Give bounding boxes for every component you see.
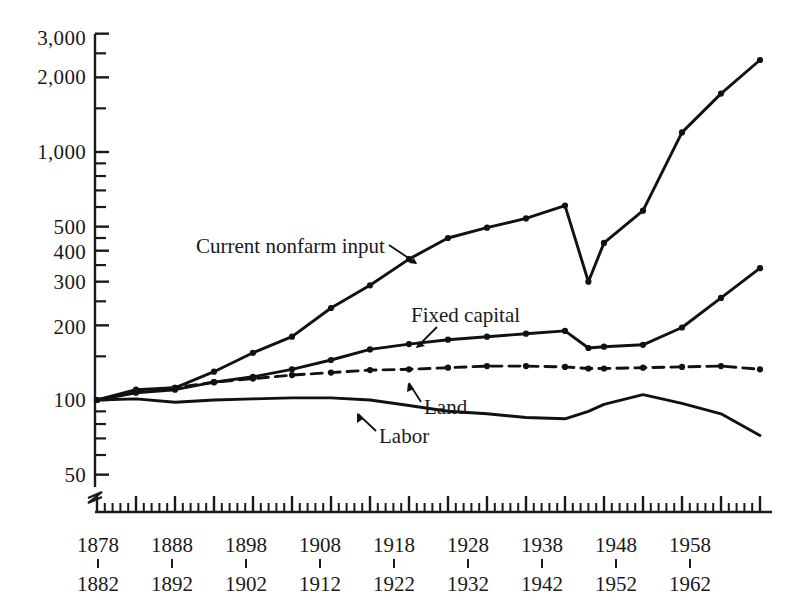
series-marker: [133, 389, 139, 395]
series-marker: [328, 370, 334, 376]
series-marker: [757, 366, 763, 372]
series-marker: [718, 363, 724, 369]
y-tick-label-300: 300: [4, 270, 86, 295]
series-marker: [250, 376, 256, 382]
series-marker: [679, 129, 685, 135]
series-marker: [211, 379, 217, 385]
series-marker: [445, 235, 451, 241]
series-marker: [367, 367, 373, 373]
series-marker: [367, 282, 373, 288]
series-marker: [562, 203, 568, 209]
annotation-arrow-labor: [358, 414, 376, 431]
axis-break-symbol: [88, 492, 102, 503]
series-marker: [640, 342, 646, 348]
series-label-fixed-capital: Fixed capital: [411, 303, 520, 328]
y-tick-label-500: 500: [4, 215, 86, 240]
series-label-current-nonfarm-input: Current nonfarm input: [196, 234, 385, 259]
series-marker: [289, 372, 295, 378]
y-tick-label-1000: 1,000: [4, 140, 86, 165]
series-marker: [328, 357, 334, 363]
series-marker: [562, 328, 568, 334]
y-tick-label-200: 200: [4, 315, 86, 340]
series-marker: [523, 363, 529, 369]
y-tick-label-400: 400: [4, 240, 86, 265]
series-marker: [445, 365, 451, 371]
series-marker: [757, 265, 763, 271]
chart-plot-area: [0, 0, 786, 613]
series-marker: [585, 345, 591, 351]
y-axis-ticks: [95, 34, 109, 475]
series-marker: [289, 334, 295, 340]
series-marker: [406, 366, 412, 372]
series-marker: [640, 365, 646, 371]
series-marker: [172, 385, 178, 391]
series-marker: [367, 346, 373, 352]
series-marker: [640, 208, 646, 214]
series-marker: [757, 57, 763, 63]
x-tick-label-upper-8: 1958: [644, 533, 736, 558]
series-line-current-nonfarm-input: [97, 60, 760, 400]
series-marker: [718, 295, 724, 301]
y-tick-label-2000: 2,000: [4, 65, 86, 90]
x-axis-ticks: [97, 496, 760, 512]
series-marker: [718, 91, 724, 97]
series-marker: [445, 337, 451, 343]
series-marker: [328, 305, 334, 311]
x-tick-label-lower-8: 1962: [644, 572, 736, 597]
series-marker: [211, 369, 217, 375]
series-marker: [289, 366, 295, 372]
chart-figure: 3,000 2,000 1,000 500 400 300 200 100 50…: [0, 0, 786, 613]
series-marker: [484, 225, 490, 231]
series-marker: [585, 279, 591, 285]
series-marker: [484, 363, 490, 369]
series-marker: [601, 344, 607, 350]
y-tick-label-3000: 3,000: [4, 26, 86, 51]
series-marker: [601, 365, 607, 371]
series-marker: [250, 350, 256, 356]
y-tick-label-50: 50: [4, 463, 86, 488]
series-label-land: Land: [424, 395, 467, 420]
series-marker: [562, 364, 568, 370]
series-marker: [601, 240, 607, 246]
series-marker: [406, 341, 412, 347]
series-marker: [484, 334, 490, 340]
series-marker: [679, 324, 685, 330]
series-marker: [585, 365, 591, 371]
series-marker: [523, 215, 529, 221]
y-tick-label-100: 100: [4, 388, 86, 413]
series-layer: [94, 57, 763, 436]
series-marker: [523, 331, 529, 337]
series-label-labor: Labor: [379, 424, 429, 449]
series-marker: [679, 364, 685, 370]
